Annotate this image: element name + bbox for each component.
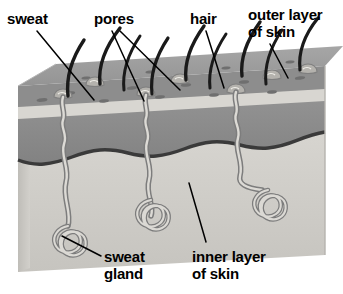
label-inner-layer-line1: inner layer bbox=[192, 248, 266, 265]
label-sweat-gland-line2: gland bbox=[104, 265, 143, 282]
label-inner-layer-line2: of skin bbox=[192, 265, 239, 282]
label-hair: hair bbox=[190, 10, 217, 27]
inner-layer-side-face bbox=[18, 146, 30, 272]
label-outer-layer-line2: of skin bbox=[248, 23, 295, 40]
skin-diagram-figure: sweat pores hair outer layer of skin swe… bbox=[0, 0, 343, 294]
label-sweat-gland-line1: sweat bbox=[104, 248, 145, 265]
label-sweat: sweat bbox=[7, 10, 48, 27]
label-pores: pores bbox=[94, 10, 134, 27]
label-outer-layer-line1: outer layer bbox=[248, 6, 323, 23]
skin-cross-section-illustration bbox=[0, 0, 343, 294]
